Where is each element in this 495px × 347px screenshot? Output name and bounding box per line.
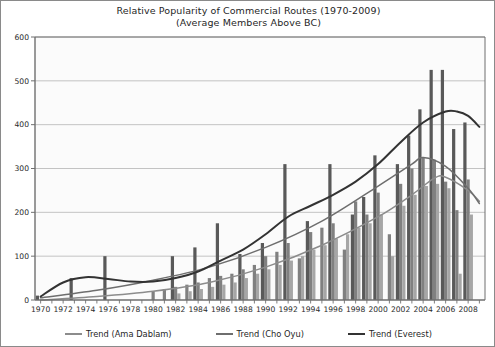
bar-everest bbox=[373, 155, 376, 300]
bar-everest bbox=[238, 254, 241, 300]
bar-ama-dablam bbox=[391, 256, 394, 300]
y-tick-label: 600 bbox=[15, 33, 30, 42]
bar-ama-dablam bbox=[278, 265, 281, 300]
bar-cho-oyu bbox=[388, 234, 391, 300]
x-tick-label: 1982 bbox=[166, 305, 185, 314]
legend-item-everest: Trend (Everest) bbox=[348, 329, 432, 339]
x-tick-label: 1980 bbox=[143, 305, 162, 314]
bar-everest bbox=[407, 136, 410, 300]
bar-everest bbox=[283, 164, 286, 300]
bar-ama-dablam bbox=[256, 274, 259, 300]
bar-ama-dablam bbox=[470, 215, 473, 300]
bar-everest bbox=[430, 70, 433, 300]
x-tick-label: 1984 bbox=[188, 305, 207, 314]
y-tick-label: 200 bbox=[15, 208, 30, 217]
bar-cho-oyu bbox=[354, 201, 357, 300]
bar-ama-dablam bbox=[312, 250, 315, 300]
bar-cho-oyu bbox=[287, 243, 290, 300]
bar-ama-dablam bbox=[245, 278, 248, 300]
x-tick-label: 1998 bbox=[346, 305, 365, 314]
bar-cho-oyu bbox=[298, 258, 301, 300]
bar-cho-oyu bbox=[422, 158, 425, 300]
x-tick-label: 2008 bbox=[458, 305, 477, 314]
bar-ama-dablam bbox=[233, 282, 236, 300]
bar-ama-dablam bbox=[458, 274, 461, 300]
x-tick-label: 1976 bbox=[98, 305, 117, 314]
legend-item-ama-dablam: Trend (Ama Dablam) bbox=[65, 329, 172, 339]
bar-everest bbox=[70, 278, 73, 300]
bar-ama-dablam bbox=[200, 289, 203, 300]
x-tick-label: 1992 bbox=[278, 305, 297, 314]
y-tick-label: 500 bbox=[15, 77, 30, 86]
bar-cho-oyu bbox=[377, 193, 380, 300]
bar-cho-oyu bbox=[152, 291, 155, 300]
chart-legend: Trend (Ama Dablam) Trend (Cho Oyu) Trend… bbox=[1, 326, 495, 342]
y-tick-label: 100 bbox=[15, 252, 30, 261]
bar-ama-dablam bbox=[335, 239, 338, 300]
x-tick-label: 1986 bbox=[211, 305, 230, 314]
bar-cho-oyu bbox=[208, 278, 211, 300]
x-tick-label: 2002 bbox=[391, 305, 410, 314]
bar-ama-dablam bbox=[413, 195, 416, 300]
bar-ama-dablam bbox=[357, 228, 360, 300]
y-tick-label: 400 bbox=[15, 120, 30, 129]
x-tick-label: 1972 bbox=[53, 305, 72, 314]
y-tick-label: 0 bbox=[24, 296, 29, 305]
bar-everest bbox=[261, 243, 264, 300]
x-tick-label: 1990 bbox=[256, 305, 275, 314]
bar-cho-oyu bbox=[444, 182, 447, 300]
legend-line-icon-everest bbox=[348, 333, 365, 335]
bar-everest bbox=[362, 197, 365, 300]
bar-cho-oyu bbox=[309, 232, 312, 300]
legend-label-everest: Trend (Everest) bbox=[369, 329, 432, 339]
x-tick-label: 1974 bbox=[76, 305, 95, 314]
bar-everest bbox=[452, 129, 455, 300]
bar-everest bbox=[463, 122, 466, 300]
bar-everest bbox=[306, 221, 309, 300]
bar-ama-dablam bbox=[425, 186, 428, 300]
bar-ama-dablam bbox=[222, 285, 225, 300]
bar-everest bbox=[396, 164, 399, 300]
bar-ama-dablam bbox=[290, 261, 293, 300]
bar-cho-oyu bbox=[264, 256, 267, 300]
x-tick-label: 1996 bbox=[323, 305, 342, 314]
bar-cho-oyu bbox=[365, 215, 368, 300]
bar-everest bbox=[441, 70, 444, 300]
y-tick-label: 300 bbox=[15, 164, 30, 173]
bar-ama-dablam bbox=[177, 293, 180, 300]
bar-everest bbox=[328, 164, 331, 300]
legend-item-cho-oyu: Trend (Cho Oyu) bbox=[216, 329, 304, 339]
chart-container: Relative Popularity of Commercial Routes… bbox=[0, 0, 495, 347]
legend-line-icon-ama-dablam bbox=[65, 333, 82, 335]
x-tick-label: 1978 bbox=[121, 305, 140, 314]
bar-ama-dablam bbox=[436, 184, 439, 300]
x-tick-label: 2006 bbox=[436, 305, 455, 314]
bar-cho-oyu bbox=[455, 210, 458, 300]
bar-cho-oyu bbox=[433, 160, 436, 300]
legend-label-cho-oyu: Trend (Cho Oyu) bbox=[237, 329, 304, 339]
bar-ama-dablam bbox=[346, 234, 349, 300]
bar-cho-oyu bbox=[343, 250, 346, 300]
bar-ama-dablam bbox=[323, 245, 326, 300]
bar-ama-dablam bbox=[447, 188, 450, 300]
x-tick-label: 1970 bbox=[31, 305, 50, 314]
bar-cho-oyu bbox=[320, 228, 323, 300]
bar-everest bbox=[418, 109, 421, 300]
x-tick-label: 1994 bbox=[301, 305, 320, 314]
bar-ama-dablam bbox=[301, 256, 304, 300]
bar-cho-oyu bbox=[467, 179, 470, 300]
legend-label-ama-dablam: Trend (Ama Dablam) bbox=[86, 329, 172, 339]
bar-cho-oyu bbox=[275, 252, 278, 300]
x-tick-label: 2004 bbox=[413, 305, 432, 314]
bar-cho-oyu bbox=[332, 223, 335, 300]
bar-everest bbox=[351, 215, 354, 300]
bar-ama-dablam bbox=[368, 223, 371, 300]
bar-ama-dablam bbox=[267, 269, 270, 300]
x-tick-label: 2000 bbox=[368, 305, 387, 314]
bar-ama-dablam bbox=[188, 291, 191, 300]
bar-cho-oyu bbox=[410, 169, 413, 301]
x-tick-label: 1988 bbox=[233, 305, 252, 314]
bar-ama-dablam bbox=[211, 287, 214, 300]
bar-ama-dablam bbox=[380, 215, 383, 300]
chart-plot-svg: 0100200300400500600197019721974197619781… bbox=[1, 1, 495, 347]
